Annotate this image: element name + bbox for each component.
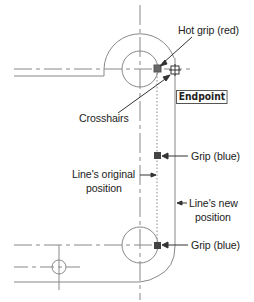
hot-grip-label: Hot grip (red) — [178, 24, 239, 37]
hot-grip-leader — [162, 37, 192, 64]
new-line-label-1: Line's new — [189, 197, 238, 210]
grip-upper-arrow — [162, 153, 168, 159]
hot-grip-arrow — [160, 60, 167, 66]
crosshairs-icon — [169, 64, 181, 76]
crosshairs-leader — [118, 77, 168, 113]
endpoint-osnap-tooltip: Endpoint — [176, 90, 228, 104]
top-outer-arc — [14, 34, 174, 76]
original-line-label-1: Line's original — [72, 168, 135, 181]
new-line-label-2: position — [195, 211, 231, 224]
grip-upper-label: Grip (blue) — [191, 150, 240, 163]
grip-upper[interactable] — [154, 152, 161, 159]
new-line-arrow — [177, 201, 182, 205]
original-line-arrow — [151, 173, 156, 177]
grip-lower[interactable] — [154, 242, 161, 249]
crosshairs-label: Crosshairs — [79, 112, 129, 125]
original-line-label-2: position — [86, 182, 122, 195]
grip-lower-label: Grip (blue) — [191, 239, 240, 252]
grip-lower-arrow — [162, 242, 168, 248]
